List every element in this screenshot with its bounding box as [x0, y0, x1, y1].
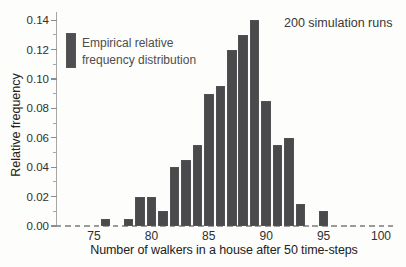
bar-x79: [135, 197, 145, 226]
bar-x84: [193, 145, 203, 226]
y-major-tick-0.08: [51, 108, 57, 109]
bar-x93: [296, 204, 306, 226]
y-axis-line: [56, 12, 57, 227]
y-major-tick-0.04: [51, 167, 57, 168]
bar-x78: [124, 219, 134, 226]
y-tick-label: 0.14: [18, 14, 49, 26]
y-major-tick-0.10: [51, 78, 57, 79]
y-minor-tick: [53, 211, 57, 212]
legend-swatch: [66, 33, 76, 68]
y-tick-label: 0.06: [18, 132, 49, 144]
bar-x83: [181, 160, 191, 226]
y-minor-tick: [53, 181, 57, 182]
x-axis-title: Number of walkers in a house after 50 ti…: [56, 243, 392, 257]
bar-x82: [170, 167, 180, 226]
x-tick-label-100: 100: [364, 230, 398, 243]
y-major-tick-0.12: [51, 49, 57, 50]
bar-x95: [319, 211, 329, 226]
histogram-figure: Relative frequency 0.000.020.040.060.080…: [0, 0, 406, 267]
bar-x80: [147, 197, 157, 226]
y-tick-label: 0.12: [18, 44, 49, 56]
y-minor-tick: [53, 64, 57, 65]
x-tick-label-75: 75: [77, 230, 111, 243]
y-minor-tick: [53, 93, 57, 94]
bar-x87: [227, 50, 237, 226]
x-tick-label-90: 90: [249, 230, 283, 243]
bar-x81: [158, 211, 168, 226]
bar-x91: [273, 145, 283, 226]
y-tick-label: 0.04: [18, 161, 49, 173]
bar-x86: [216, 86, 226, 226]
bar-x92: [284, 138, 294, 226]
bar-x88: [238, 35, 248, 226]
simulation-runs-annotation: 200 simulation runs: [284, 16, 392, 30]
x-tick-label-95: 95: [307, 230, 341, 243]
legend-label-line2: frequency distribution: [82, 52, 196, 69]
y-minor-tick: [53, 34, 57, 35]
bar-x76: [101, 219, 111, 226]
y-major-tick-0.14: [51, 20, 57, 21]
legend-label-line1: Empirical relative: [82, 35, 196, 52]
bar-x85: [204, 94, 214, 226]
y-tick-label: 0.08: [18, 102, 49, 114]
bar-x89: [250, 20, 260, 226]
y-major-tick-0.00: [51, 225, 57, 226]
x-tick-label-85: 85: [192, 230, 226, 243]
y-minor-tick: [53, 152, 57, 153]
y-tick-label: 0.00: [18, 220, 49, 232]
x-tick-label-80: 80: [134, 230, 168, 243]
bar-x90: [261, 101, 271, 226]
y-tick-label: 0.02: [18, 191, 49, 203]
y-major-tick-0.06: [51, 137, 57, 138]
legend-label: Empirical relative frequency distributio…: [82, 35, 196, 68]
y-major-tick-0.02: [51, 196, 57, 197]
y-tick-label: 0.10: [18, 73, 49, 85]
y-minor-tick: [53, 123, 57, 124]
